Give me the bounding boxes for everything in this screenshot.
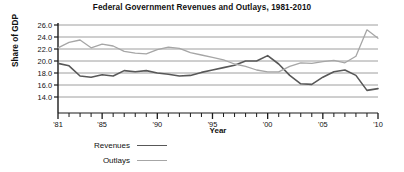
y-tick-label: 24.0 [22,33,52,42]
legend-swatch-revenues [137,145,167,146]
legend-label-outlays: Outlays [46,156,137,165]
legend-label-revenues: Revenues [46,141,137,150]
chart-figure: Federal Government Revenues and Outlays,… [0,0,404,172]
y-tick-label: 26.0 [22,21,52,30]
x-axis-ticks [58,113,378,119]
y-tick-label: 22.0 [22,45,52,54]
y-tick-label: 20.0 [22,57,52,66]
chart-legend: Revenues Outlays [46,138,206,168]
legend-item-revenues: Revenues [46,138,206,153]
y-tick-label: 18.0 [22,69,52,78]
y-tick-label: 14.0 [22,93,52,102]
legend-swatch-outlays [137,160,167,161]
x-axis-label: Year [58,126,378,135]
legend-item-outlays: Outlays [46,153,206,168]
y-tick-label: 16.0 [22,81,52,90]
data-series-lines [58,30,378,91]
